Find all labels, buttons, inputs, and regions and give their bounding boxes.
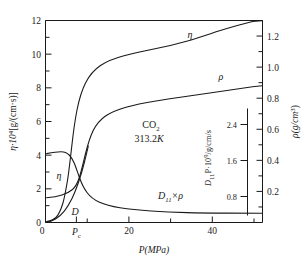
curve-label-d11-rho: D11×ρ [157, 190, 183, 203]
figure-container: 12 10 8 6 4 2 0 η·104[g/(cm·s)] [0, 0, 308, 270]
left-axis-title-unit: [g/(cm·s)] [8, 92, 19, 131]
right-ticklabel-08: 0.8 [267, 94, 279, 104]
left-axis-ticklabels: 12 10 8 6 4 2 0 [32, 16, 42, 228]
left-ticklabel-10: 10 [32, 50, 42, 60]
curve-label-eta-left: η [57, 170, 62, 181]
x-axis-ticklabels: 0 20 40 Pc [40, 226, 218, 239]
left-ticklabel-6: 6 [36, 117, 41, 127]
inner-ticklabel-24: 2.4 [227, 121, 238, 130]
left-ticklabel-4: 4 [36, 151, 41, 161]
right-ticklabel-12: 1.2 [267, 32, 279, 42]
svg-text:D11P·109/g/cm/s: D11P·109/g/cm/s [202, 130, 215, 187]
curve-label-rho: ρ [218, 71, 224, 82]
xticklabel-20: 20 [124, 226, 134, 236]
right-ticklabel-02: 0.2 [267, 187, 279, 197]
svg-text:ρ(g/cm3): ρ(g/cm3) [289, 105, 302, 139]
inner-ticklabel-16: 1.6 [227, 157, 237, 166]
inner-axis [241, 109, 248, 216]
right-axis-ticks [257, 21, 263, 207]
right-ticklabel-06: 0.6 [267, 125, 279, 135]
annotation-substance: CO2 [142, 119, 160, 132]
x-axis-title: P(MPa) [138, 245, 170, 256]
curve-label-d: D [70, 206, 79, 217]
right-ticklabel-04: 0.4 [267, 156, 279, 166]
right-axis-title: ρ(g/cm3) [289, 105, 302, 139]
right-axis-title-close: ) [290, 105, 301, 108]
left-ticklabel-12: 12 [32, 16, 42, 26]
inner-axis-title-unit: /g/cm/s [204, 130, 213, 154]
svg-text:η·104[g/(cm·s)]: η·104[g/(cm·s)] [7, 92, 20, 151]
left-axis-ticks [46, 21, 52, 223]
inner-axis-title-symbol: D [204, 180, 213, 187]
inner-ticklabel-08: 0.8 [227, 193, 237, 202]
right-axis-title-symbol: ρ(g/cm [290, 112, 301, 139]
left-ticklabel-8: 8 [36, 83, 41, 93]
xticklabel-40: 40 [208, 226, 218, 236]
chart-svg: 12 10 8 6 4 2 0 η·104[g/(cm·s)] [0, 0, 308, 270]
left-axis-title: η·104[g/(cm·s)] [7, 92, 20, 151]
xticklabel-0: 0 [40, 226, 45, 236]
left-ticklabel-2: 2 [36, 184, 41, 194]
curve-label-eta-top: η [188, 29, 193, 40]
right-axis-ticklabels: 0.2 0.4 0.6 0.8 1.0 1.2 [267, 32, 279, 198]
inner-axis-title-mid: P·10 [204, 158, 213, 174]
right-ticklabel-10: 1.0 [267, 63, 279, 73]
x-axis-ticks [46, 217, 255, 223]
inner-axis-ticklabels: 0.8 1.6 2.4 [227, 121, 238, 202]
inner-axis-title: D11P·109/g/cm/s [202, 130, 215, 187]
xticklabel-pc: Pc [71, 227, 81, 239]
annotation-temperature: 313.2K [134, 133, 165, 144]
left-axis-title-symbol: η·10 [8, 134, 18, 151]
